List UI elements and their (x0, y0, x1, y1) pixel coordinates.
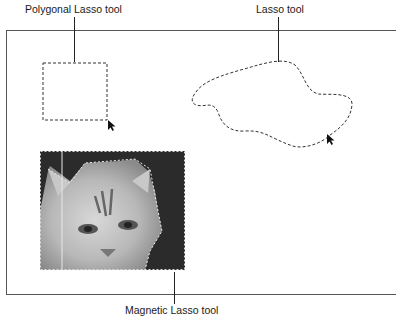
polygonal-marquee (43, 63, 107, 120)
cursor-arrow-icon (108, 120, 116, 131)
cursor-arrow-icon (327, 134, 335, 145)
freehand-lasso-marquee (192, 61, 352, 147)
